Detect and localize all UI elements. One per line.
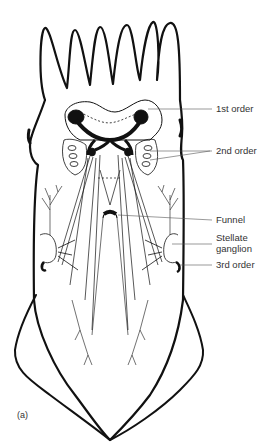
label-funnel: Funnel bbox=[216, 214, 245, 225]
stellate-ganglia bbox=[40, 234, 180, 272]
panel-label: (a) bbox=[17, 410, 28, 421]
label-first-order: 1st order bbox=[216, 103, 254, 114]
brain bbox=[65, 100, 162, 155]
arms-outline bbox=[40, 22, 180, 100]
right-fin-outline bbox=[110, 295, 203, 440]
label-second-order: 2nd order bbox=[216, 145, 257, 156]
giant-axons bbox=[58, 155, 162, 330]
label-third-order: 3rd order bbox=[216, 259, 255, 270]
label-ganglion: ganglion bbox=[216, 243, 252, 254]
mantle-outline bbox=[34, 300, 183, 440]
label-stellate: Stellate bbox=[216, 232, 248, 243]
second-order-lobes bbox=[62, 139, 157, 175]
squid-nerve-diagram: 1st order 2nd order Funnel Stellate gang… bbox=[0, 0, 271, 448]
left-fin-outline bbox=[15, 295, 110, 440]
